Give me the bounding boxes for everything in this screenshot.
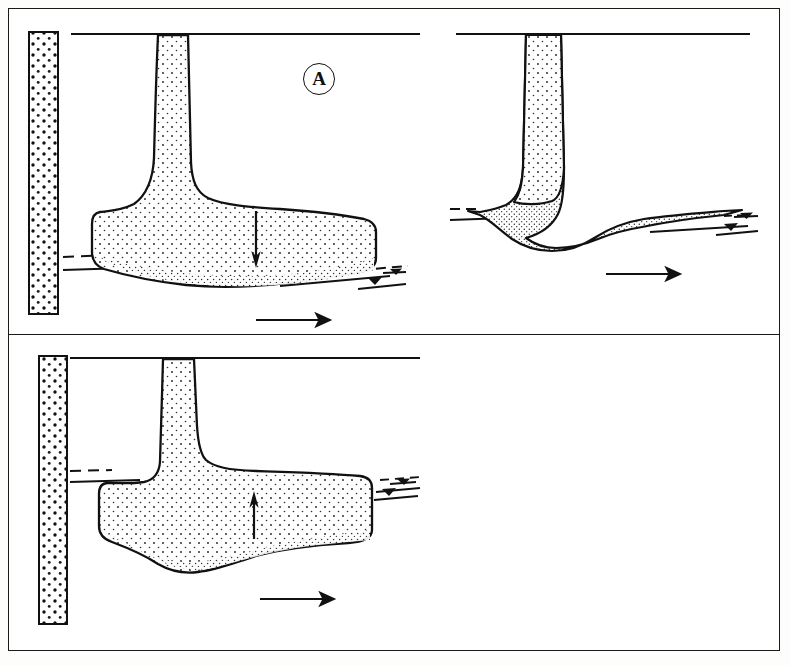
bedrock-column [29,32,58,314]
bedrock-column [39,356,67,624]
figure-container: A [0,0,790,666]
deposit-wedge [468,35,742,251]
bed-lines-left [70,470,140,482]
panel-b: B [428,8,780,334]
panel-a-drawing [8,8,428,334]
water-level-triangle-icon-upper [390,479,416,486]
panel-a: A [8,8,428,334]
water-level-triangle-icon-lower [716,223,758,235]
panel-b-drawing [428,8,780,334]
water-level-triangle-icon-upper [383,269,406,275]
panel-label-a-text: A [312,68,326,90]
panel-c: C [8,334,428,651]
panel-label-a: A [303,63,335,95]
feeder-conduit [514,35,564,204]
panel-c-drawing [8,334,428,651]
